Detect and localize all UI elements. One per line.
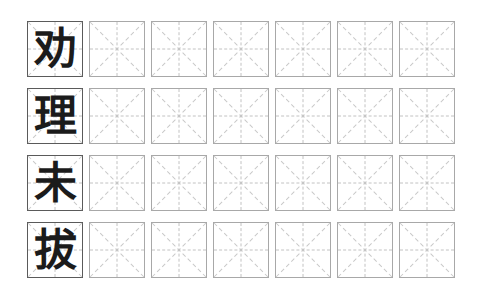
character-cell-empty[interactable] — [213, 21, 269, 77]
character-glyph: 未 — [28, 156, 82, 210]
character-cell-empty[interactable] — [337, 155, 393, 211]
practice-row: 拔 — [27, 222, 457, 278]
character-cell-empty[interactable] — [89, 21, 145, 77]
character-glyph — [90, 156, 144, 210]
character-glyph — [276, 89, 330, 143]
character-cell-empty[interactable] — [151, 222, 207, 278]
character-cell-empty[interactable] — [399, 155, 455, 211]
character-cell-empty[interactable] — [399, 222, 455, 278]
character-cell-model[interactable]: 未 — [27, 155, 83, 211]
character-cell-empty[interactable] — [275, 222, 331, 278]
character-cell-empty[interactable] — [151, 88, 207, 144]
character-grid: 劝 — [27, 21, 457, 289]
character-glyph — [152, 156, 206, 210]
character-glyph: 劝 — [28, 22, 82, 76]
character-cell-empty[interactable] — [151, 155, 207, 211]
character-glyph — [90, 22, 144, 76]
character-glyph — [90, 223, 144, 277]
character-glyph — [276, 156, 330, 210]
character-glyph — [214, 89, 268, 143]
character-cell-empty[interactable] — [89, 88, 145, 144]
practice-row: 劝 — [27, 21, 457, 77]
character-glyph: 理 — [28, 89, 82, 143]
character-cell-empty[interactable] — [275, 88, 331, 144]
character-glyph — [338, 22, 392, 76]
character-cell-empty[interactable] — [151, 21, 207, 77]
character-glyph — [214, 223, 268, 277]
character-cell-empty[interactable] — [337, 21, 393, 77]
character-cell-empty[interactable] — [337, 222, 393, 278]
character-cell-empty[interactable] — [89, 222, 145, 278]
character-cell-empty[interactable] — [213, 88, 269, 144]
character-glyph — [400, 89, 454, 143]
character-cell-empty[interactable] — [399, 88, 455, 144]
character-cell-empty[interactable] — [213, 222, 269, 278]
character-glyph — [90, 89, 144, 143]
character-cell-empty[interactable] — [337, 88, 393, 144]
character-cell-empty[interactable] — [89, 155, 145, 211]
practice-row: 理 — [27, 88, 457, 144]
character-cell-empty[interactable] — [213, 155, 269, 211]
character-glyph — [152, 22, 206, 76]
character-cell-model[interactable]: 拔 — [27, 222, 83, 278]
character-glyph — [214, 22, 268, 76]
character-cell-model[interactable]: 劝 — [27, 21, 83, 77]
character-glyph — [214, 156, 268, 210]
character-glyph — [276, 223, 330, 277]
character-cell-empty[interactable] — [275, 155, 331, 211]
character-glyph — [400, 22, 454, 76]
character-cell-empty[interactable] — [275, 21, 331, 77]
character-glyph — [152, 89, 206, 143]
character-glyph — [338, 156, 392, 210]
practice-row: 未 — [27, 155, 457, 211]
character-cell-empty[interactable] — [399, 21, 455, 77]
practice-worksheet: 劝 — [0, 0, 484, 296]
character-glyph — [400, 223, 454, 277]
character-glyph — [276, 22, 330, 76]
character-glyph — [338, 89, 392, 143]
character-glyph: 拔 — [28, 223, 82, 277]
character-glyph — [152, 223, 206, 277]
character-glyph — [400, 156, 454, 210]
character-glyph — [338, 223, 392, 277]
character-cell-model[interactable]: 理 — [27, 88, 83, 144]
